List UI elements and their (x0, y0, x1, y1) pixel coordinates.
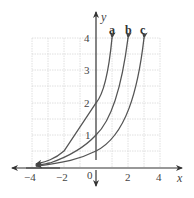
y-axis-label: y (100, 10, 107, 24)
y-tick-4: 4 (84, 32, 90, 44)
x-tick-0: 0 (87, 169, 93, 181)
curve-label-a: a (109, 23, 115, 37)
curve-a (36, 38, 112, 164)
curve-label-b: b (125, 23, 132, 37)
curve-b (36, 38, 128, 165)
curve-label-c: c (140, 23, 146, 37)
x-tick-2: 2 (125, 171, 131, 183)
x-tick-m4: −4 (24, 171, 36, 183)
x-tick-m2: −2 (56, 171, 68, 183)
exponential-graph: a b c y x 4 3 2 1 −4 −2 0 2 4 (0, 0, 194, 198)
x-axis-label: x (176, 171, 183, 185)
x-tick-4: 4 (156, 171, 162, 183)
y-tick-2: 2 (84, 97, 90, 109)
y-tick-3: 3 (84, 64, 90, 76)
y-tick-1: 1 (85, 129, 91, 141)
